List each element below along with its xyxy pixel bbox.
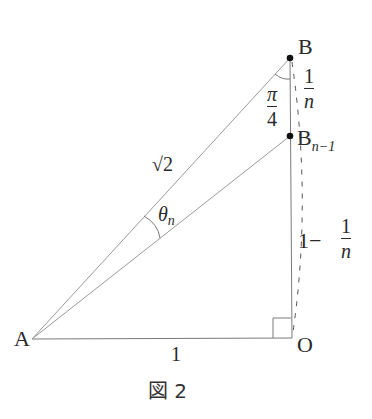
segment-AO <box>32 338 292 339</box>
geometry-diagram <box>0 0 372 419</box>
figure-2: A O B Bn−1 1 √2 θn π 4 1 n 1− 1 n 図 2 <box>0 0 372 419</box>
theta-subscript: n <box>168 213 175 228</box>
one-numerator: 1 <box>341 216 351 236</box>
pi-numerator: π <box>267 84 277 104</box>
angle-arc-at-B <box>275 74 290 79</box>
label-B: B <box>298 36 313 58</box>
label-AB-length: √2 <box>152 154 173 174</box>
label-theta-n: θn <box>158 204 175 228</box>
label-AO-length: 1 <box>171 344 181 364</box>
four-denominator: 4 <box>267 109 277 129</box>
segment-AB <box>32 58 290 339</box>
label-B-n-minus-1-subscript: n−1 <box>312 139 335 154</box>
label-A: A <box>14 328 30 350</box>
label-B-n-minus-1: Bn−1 <box>297 127 335 154</box>
fraction-bar <box>341 238 351 239</box>
label-one-over-n: 1 n <box>304 66 314 111</box>
label-angle-pi-over-4: π 4 <box>267 84 277 129</box>
figure-caption: 図 2 <box>148 381 187 401</box>
fraction-bar <box>267 106 277 107</box>
label-one-minus-prefix: 1− <box>298 230 321 252</box>
one-numerator: 1 <box>304 66 314 86</box>
n-denominator: n <box>304 91 314 111</box>
right-angle-marker <box>273 318 291 338</box>
point-B-n-minus-1-dot <box>287 133 294 140</box>
label-one-minus-one-over-n: 1 n <box>341 216 351 261</box>
label-B-n-minus-1-base: B <box>297 125 312 150</box>
fraction-bar <box>304 88 314 89</box>
label-O: O <box>297 334 313 356</box>
theta-symbol: θ <box>158 203 168 225</box>
n-denominator: n <box>341 241 351 261</box>
point-B-dot <box>287 55 294 62</box>
dashed-arc <box>292 62 302 332</box>
segment-OB <box>290 58 292 338</box>
